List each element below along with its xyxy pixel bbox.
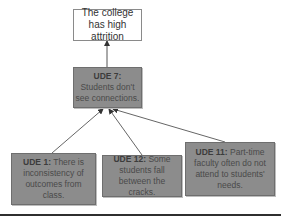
ude-7-text: Students don't see connections. [76,82,140,103]
arrow-ude1-to-ude7 [52,109,103,153]
top-effect-text: The college has high attrition [74,7,141,43]
ude-12-box: UDE 12: Some students fall between the c… [102,155,182,197]
bottom-divider [0,214,281,216]
top-effect-box: The college has high attrition [73,9,142,41]
ude-1-tag: UDE 1: [23,157,51,167]
ude-11-box: UDE 11: Part-time faculty often do not a… [185,142,275,196]
ude-1-box: UDE 1: There is inconsistency of outcome… [11,153,96,205]
arrow-ude11-to-ude7 [113,109,225,142]
ude-11-tag: UDE 11: [196,147,228,157]
ude-7-tag: UDE 7: [94,71,122,81]
ude-12-tag: UDE 12: [113,154,146,164]
ude-7-box: UDE 7: Students don't see connections. [73,67,142,108]
